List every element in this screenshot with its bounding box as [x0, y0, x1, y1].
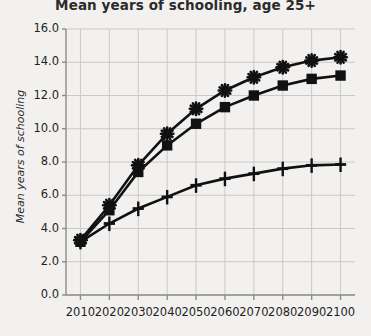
plot-area: [0, 0, 371, 336]
data-point-plus: [248, 167, 259, 182]
data-point-plus: [335, 157, 346, 172]
data-point-plus: [277, 162, 288, 177]
data-point-square: [104, 205, 114, 215]
data-point-star: [334, 51, 346, 63]
data-point-star: [248, 71, 260, 83]
data-point-square: [249, 90, 259, 100]
data-point-plus: [190, 178, 201, 193]
data-point-plus: [162, 190, 173, 205]
data-point-star: [219, 84, 231, 96]
data-point-plus: [133, 202, 144, 217]
data-point-square: [191, 119, 201, 129]
chart-container: Mean years of schooling, age 25+ Mean ye…: [0, 0, 371, 336]
data-point-plus: [306, 158, 317, 173]
data-point-star: [305, 54, 317, 66]
data-point-square: [220, 102, 230, 112]
data-point-square: [335, 70, 345, 80]
data-point-star: [277, 61, 289, 73]
data-point-square: [162, 140, 172, 150]
data-point-square: [278, 80, 288, 90]
data-point-square: [306, 74, 316, 84]
data-point-plus: [219, 172, 230, 187]
data-point-square: [133, 167, 143, 177]
